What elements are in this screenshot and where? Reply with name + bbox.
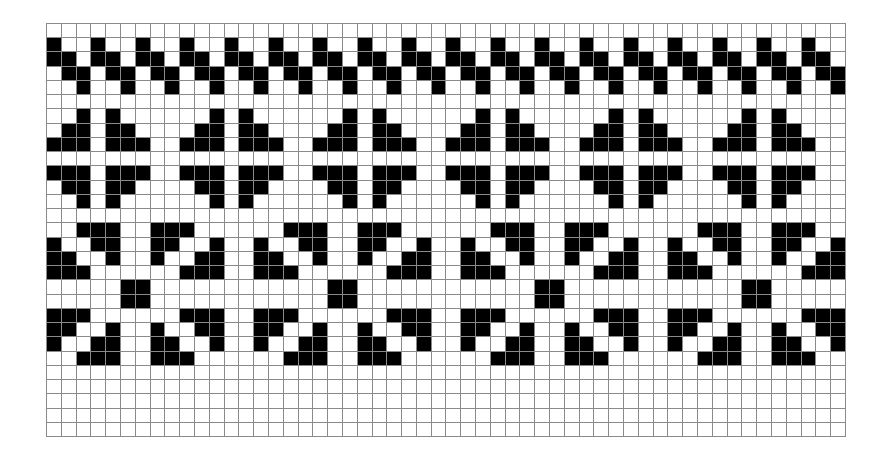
filled-cell [609, 266, 624, 280]
empty-cell [535, 409, 550, 423]
empty-cell [772, 380, 787, 394]
filled-cell [180, 352, 195, 366]
empty-cell [180, 423, 195, 437]
empty-cell [417, 195, 432, 209]
empty-cell [757, 337, 772, 351]
empty-cell [831, 181, 846, 195]
empty-cell [106, 380, 121, 394]
empty-cell [476, 95, 491, 109]
filled-cell [358, 337, 373, 351]
empty-cell [77, 323, 92, 337]
empty-cell [594, 409, 609, 423]
filled-cell [210, 181, 225, 195]
empty-cell [491, 380, 506, 394]
filled-cell [136, 52, 151, 66]
empty-cell [565, 138, 580, 152]
filled-cell [210, 124, 225, 138]
empty-cell [106, 309, 121, 323]
empty-cell [343, 152, 358, 166]
empty-cell [47, 67, 62, 81]
empty-cell [91, 323, 106, 337]
empty-cell [313, 423, 328, 437]
empty-cell [195, 109, 210, 123]
filled-cell [461, 323, 476, 337]
empty-cell [328, 352, 343, 366]
empty-cell [816, 238, 831, 252]
empty-cell [77, 423, 92, 437]
filled-cell [698, 309, 713, 323]
filled-cell [535, 295, 550, 309]
empty-cell [432, 337, 447, 351]
empty-cell [210, 394, 225, 408]
empty-cell [180, 366, 195, 380]
filled-cell [609, 195, 624, 209]
empty-cell [136, 252, 151, 266]
empty-cell [772, 423, 787, 437]
filled-cell [313, 238, 328, 252]
empty-cell [787, 109, 802, 123]
empty-cell [491, 337, 506, 351]
empty-cell [624, 195, 639, 209]
empty-cell [461, 380, 476, 394]
filled-cell [772, 166, 787, 180]
empty-cell [358, 380, 373, 394]
filled-cell [757, 295, 772, 309]
empty-cell [284, 195, 299, 209]
filled-cell [713, 352, 728, 366]
empty-cell [802, 423, 817, 437]
empty-cell [387, 152, 402, 166]
empty-cell [328, 394, 343, 408]
filled-cell [609, 309, 624, 323]
filled-cell [520, 337, 535, 351]
empty-cell [683, 394, 698, 408]
empty-cell [580, 266, 595, 280]
empty-cell [136, 124, 151, 138]
filled-cell [165, 337, 180, 351]
empty-cell [269, 238, 284, 252]
empty-cell [506, 280, 521, 294]
empty-cell [373, 380, 388, 394]
empty-cell [239, 337, 254, 351]
empty-cell [47, 24, 62, 38]
empty-cell [757, 95, 772, 109]
filled-cell [580, 238, 595, 252]
filled-cell [210, 252, 225, 266]
filled-cell [772, 109, 787, 123]
filled-cell [535, 138, 550, 152]
empty-cell [594, 423, 609, 437]
empty-cell [387, 394, 402, 408]
empty-cell [624, 295, 639, 309]
empty-cell [713, 152, 728, 166]
empty-cell [313, 95, 328, 109]
empty-cell [476, 38, 491, 52]
empty-cell [225, 166, 240, 180]
empty-cell [151, 138, 166, 152]
empty-cell [698, 380, 713, 394]
empty-cell [47, 109, 62, 123]
empty-cell [550, 223, 565, 237]
empty-cell [284, 366, 299, 380]
empty-cell [299, 52, 314, 66]
filled-cell [343, 138, 358, 152]
filled-cell [713, 238, 728, 252]
filled-cell [195, 181, 210, 195]
filled-cell [195, 52, 210, 66]
empty-cell [668, 280, 683, 294]
empty-cell [313, 266, 328, 280]
empty-cell [535, 81, 550, 95]
empty-cell [313, 394, 328, 408]
empty-cell [816, 295, 831, 309]
empty-cell [831, 38, 846, 52]
filled-cell [728, 337, 743, 351]
empty-cell [594, 238, 609, 252]
filled-cell [62, 181, 77, 195]
empty-cell [91, 366, 106, 380]
filled-cell [254, 252, 269, 266]
empty-cell [535, 266, 550, 280]
empty-cell [269, 81, 284, 95]
empty-cell [757, 24, 772, 38]
filled-cell [491, 309, 506, 323]
filled-cell [210, 323, 225, 337]
empty-cell [62, 295, 77, 309]
empty-cell [47, 423, 62, 437]
